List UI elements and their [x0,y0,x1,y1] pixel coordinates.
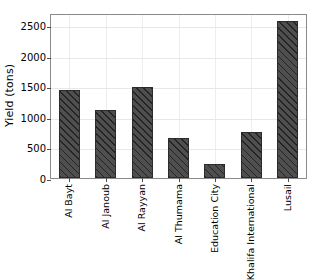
x-axis-tick [288,178,289,182]
y-axis-tick-label: 2500 [21,21,46,32]
y-axis-tick [47,27,51,28]
bar [241,132,262,178]
y-axis-tick-label: 1000 [21,112,46,123]
y-axis-tick-labels: 05001000150020002500 [18,14,46,179]
x-axis-tick-label: Lusail [281,184,292,211]
bar [204,164,225,178]
bar [277,21,298,178]
y-gridline [51,27,306,28]
y-axis-tick [47,180,51,181]
x-axis-tick-label: Al Thumama [172,184,183,244]
y-axis-tick [47,119,51,120]
x-axis-tick [179,178,180,182]
y-axis-tick-label: 1500 [21,82,46,93]
y-axis-tick [47,58,51,59]
x-axis-tick [215,178,216,182]
bar [132,87,153,178]
y-axis-tick-label: 500 [27,143,46,154]
bar [59,90,80,178]
x-gridline [215,15,216,178]
y-axis-label-text: Yield (tons) [4,63,17,126]
y-axis-tick [47,149,51,150]
y-gridline [51,88,306,89]
y-axis-tick [47,88,51,89]
x-axis-tick-label: Al Janoub [99,184,110,229]
x-axis-tick-label: Education City [208,184,219,253]
y-gridline [51,58,306,59]
y-axis-tick-label: 2000 [21,51,46,62]
bar [168,138,189,178]
y-axis-label: Yield (tons) [2,0,18,190]
y-gridline [51,119,306,120]
y-axis-tick-label: 0 [40,174,46,185]
x-axis-tick-label: Al Bayt [63,184,74,218]
x-axis-tick [69,178,70,182]
x-axis-tick [251,178,252,182]
bar [95,110,116,178]
x-axis-tick-label: Khalifa International [245,184,256,280]
x-axis-tick-label: Al Rayyan [136,184,147,231]
x-axis-tick [106,178,107,182]
plot-area [50,14,307,179]
x-axis-tick-labels: Al BaytAl JanoubAl RayyanAl ThumamaEduca… [50,184,307,272]
x-axis-tick [142,178,143,182]
